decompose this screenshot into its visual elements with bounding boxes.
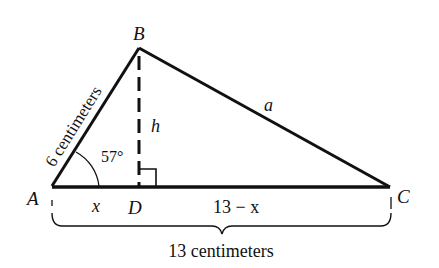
side-label-bc: a bbox=[264, 95, 273, 115]
angle-arc-a bbox=[76, 152, 99, 186]
triangle-diagram: B A D C 6 centimeters a h 57° x 13 − x 1… bbox=[0, 0, 439, 268]
vertex-label-b: B bbox=[133, 23, 145, 44]
segment-label-dc: 13 − x bbox=[213, 197, 259, 217]
vertex-label-d: D bbox=[127, 197, 142, 218]
vertex-label-c: C bbox=[397, 186, 410, 207]
altitude-label-h: h bbox=[151, 116, 160, 136]
side-ab bbox=[52, 48, 139, 186]
side-label-ab: 6 centimeters bbox=[41, 83, 105, 170]
right-angle-marker bbox=[139, 169, 156, 186]
vertex-label-a: A bbox=[25, 188, 39, 209]
angle-label-a: 57° bbox=[101, 148, 123, 165]
total-length-label: 13 centimeters bbox=[168, 241, 273, 261]
segment-label-ad: x bbox=[91, 196, 100, 216]
side-bc bbox=[139, 48, 390, 187]
